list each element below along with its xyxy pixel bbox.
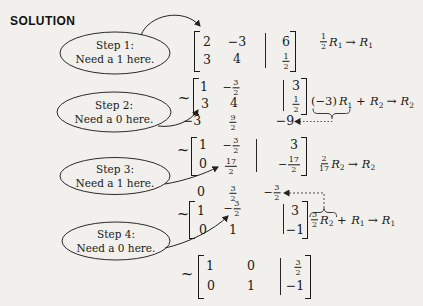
m2-r2-aug-den: 2 [293,105,298,114]
matrix-2-augment-bar [283,80,284,111]
equiv-tilde-1: ~ [178,89,191,107]
step-4-pointer-arrow [165,216,228,248]
auxB-c3-num: 3 [273,183,280,193]
m3-r2-aug-den: 2 [291,166,296,175]
m3-r2c2: 172 [225,154,237,176]
matrix-3-right-bracket [301,137,307,176]
step-2-caption: Need a 0 here. [75,113,154,125]
m4-r2c2: 1 [229,224,237,237]
op1-coef-den: 2 [321,43,326,52]
op3-rA: R [331,157,340,171]
op2-rA: R [339,94,348,108]
m1-r1c1: 2 [203,36,211,49]
step-4-caption: Need a 0 here. [77,242,156,254]
auxB-c3: −32 [264,183,281,202]
op2-rC: R [401,94,410,108]
m3-r1c2-num: 3 [232,136,239,146]
m1-r2-aug-num: 1 [282,52,289,62]
op4-rC-sub: 1 [390,219,395,228]
m4-r1c2: −32 [224,199,241,218]
matrix-1-left-bracket [194,31,200,72]
op3-arrow: → [348,157,358,171]
m5-r2-aug: −1 [286,280,304,293]
op2-underbrace [313,109,350,118]
op2-coef: (−3) [311,94,337,108]
step-3-caption: Need a 1 here. [76,177,155,189]
m4-r1c2-den: 2 [234,210,239,219]
matrix-5-left-bracket [198,255,204,299]
m5-r1-aug: 32 [294,255,301,277]
m3-r2c2-den: 2 [228,167,233,176]
step-2-label: Step 2: [95,99,133,111]
m2-r2c2: 4 [230,97,238,110]
m5-r1-aug-den: 2 [295,268,300,277]
matrix-4-augment-bar [283,204,284,234]
matrix-2-right-bracket [301,78,307,115]
solution-page: SOLUTION Step 1: Need a 1 here. Step 2: … [0,0,423,306]
m2-r2-aug: 12 [292,92,299,114]
matrix-5-augment-bar [280,258,281,295]
m4-r2-aug: −1 [286,224,304,237]
step-1-caption: Need a 1 here. [76,53,155,65]
step-1-pointer-arrow [141,15,200,35]
op1-rB-sub: 1 [368,41,373,50]
step-2-oval [57,92,171,132]
op4-arrow: → [368,213,378,227]
matrix-3-augment-bar [256,139,257,172]
op3-coef-den: 17 [319,165,329,174]
op3-coef-num: 2 [321,154,328,164]
m2-r1c2-num: 3 [232,78,239,88]
op2-rA-sub: 1 [348,100,353,109]
m2-r1c2-sign: − [223,83,232,94]
m3-r1c2: −32 [223,136,240,155]
auxB-c3-sign: − [264,188,273,199]
m3-r2-aug-sign: − [278,160,287,171]
auxA-c1: −3 [183,115,201,128]
m3-r2c2-num: 17 [225,157,237,167]
m1-r2-aug-den: 2 [283,62,288,71]
auxA-c2: 92 [229,110,236,132]
row-op-3: 217 R2 → R2 [319,154,375,173]
equiv-tilde-2: ~ [177,141,190,159]
op2-rC-sub: 2 [409,100,414,109]
auxB-c2-num: 3 [229,184,236,194]
auxA-dotted-arrow [295,118,332,122]
row-op-1: 12 R1 → R1 [320,32,373,51]
auxA-c3: −9 [276,115,294,128]
row-op-2: (−3) R1 + R2 → R2 [311,94,414,108]
m3-r1c2-sign: − [223,141,232,152]
matrix-4-left-bracket [189,201,195,239]
m3-r2-aug: −172 [278,155,300,174]
op4-rA-sub: 2 [329,219,334,228]
auxA-c2-num: 9 [229,113,236,123]
op1-rA-sub: 1 [338,41,343,50]
m5-r1c1: 1 [206,260,214,273]
step-4-label: Step 4: [97,228,135,240]
op4-plus: + [337,213,347,227]
op4-rA: R [320,213,329,227]
op2-rB: R [370,94,379,108]
m2-r1c1: 1 [200,81,208,94]
m2-r2c1: 3 [201,98,209,111]
m5-r2c1: 0 [207,280,215,293]
matrix-1-augment-bar [265,33,266,68]
op4-coef-den: 2 [312,221,317,230]
op3-rB-sub: 2 [370,163,375,172]
auxB-c1: 0 [197,186,205,199]
step-1-label: Step 1: [96,39,134,51]
op2-arrow: → [386,94,396,108]
auxB-c3-den: 2 [274,194,279,203]
matrix-2-left-bracket [193,78,199,115]
op4-rB: R [351,213,360,227]
row-op-4: 32 R2 + R1 → R1 [311,210,395,229]
equiv-tilde-3: ~ [177,205,190,223]
matrix-5-right-bracket [305,255,311,299]
matrix-3-left-bracket [191,137,197,176]
m2-r2-aug-num: 1 [292,95,299,105]
m4-r1c2-sign: − [224,204,233,215]
m3-r2c1: 0 [199,158,207,171]
op2-plus: + [356,94,366,108]
m4-r1c1: 1 [197,205,205,218]
m1-r2c1: 3 [203,54,211,67]
step-3-label: Step 3: [96,163,134,175]
